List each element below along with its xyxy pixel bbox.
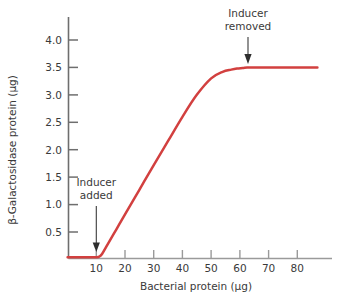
x-tick-label-80: 80: [291, 262, 304, 274]
inducer-removed-label-line1: Inducer: [228, 7, 268, 19]
y-tick-label-3.0: 3.0: [45, 89, 62, 101]
y-tick-label-1.5: 1.5: [45, 171, 62, 183]
y-tick-label-4.0: 4.0: [45, 34, 62, 46]
x-axis-title: Bacterial protein (µg): [140, 280, 252, 292]
x-tick-marks: [96, 250, 297, 259]
y-axis-title: β-Galactosidase protein (µg): [6, 75, 18, 225]
axes-group: [69, 17, 333, 259]
inducer-removed-label-line2: removed: [225, 20, 272, 32]
data-series-group: [68, 67, 318, 257]
x-tick-label-30: 30: [147, 262, 160, 274]
x-tick-label-50: 50: [204, 262, 217, 274]
beta-galactosidase-induction-chart: 4.0 3.5 3.0 2.5 2.0 1.5 1.0 0.5 10 20 30…: [0, 0, 341, 299]
inducer-removed-arrow-head-icon: [244, 54, 251, 64]
x-tick-label-60: 60: [233, 262, 246, 274]
y-tick-label-2.0: 2.0: [45, 144, 62, 156]
annotation-inducer-removed: Inducer removed: [225, 7, 272, 64]
y-tick-label-1.0: 1.0: [45, 198, 62, 210]
beta-galactosidase-curve: [68, 67, 318, 257]
inducer-added-label-line2: added: [80, 189, 113, 201]
x-tick-label-10: 10: [90, 262, 103, 274]
y-tick-label-0.5: 0.5: [45, 226, 62, 238]
inducer-added-arrow-head-icon: [93, 243, 100, 253]
y-tick-labels: 4.0 3.5 3.0 2.5 2.0 1.5 1.0 0.5: [45, 34, 62, 238]
x-tick-label-70: 70: [262, 262, 275, 274]
x-tick-labels: 10 20 30 40 50 60 70 80: [90, 262, 304, 274]
chart-figure: 4.0 3.5 3.0 2.5 2.0 1.5 1.0 0.5 10 20 30…: [0, 0, 341, 299]
x-tick-label-20: 20: [118, 262, 131, 274]
y-tick-label-3.5: 3.5: [45, 61, 62, 73]
y-tick-marks: [69, 40, 79, 232]
y-tick-label-2.5: 2.5: [45, 116, 62, 128]
x-tick-label-40: 40: [176, 262, 189, 274]
inducer-added-label-line1: Inducer: [76, 176, 116, 188]
